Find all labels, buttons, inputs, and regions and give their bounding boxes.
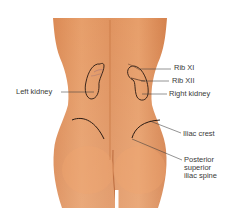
label-psis-3: iliac spine bbox=[184, 172, 217, 180]
label-rib-xii: Rib XII bbox=[172, 77, 195, 85]
label-right-kidney: Right kidney bbox=[169, 90, 210, 98]
label-iliac-crest: Iliac crest bbox=[183, 130, 215, 138]
anatomy-figure bbox=[0, 0, 233, 222]
label-rib-xi: Rib XI bbox=[174, 64, 194, 72]
label-left-kidney: Left kidney bbox=[16, 88, 52, 96]
gap-between-legs bbox=[115, 190, 119, 208]
